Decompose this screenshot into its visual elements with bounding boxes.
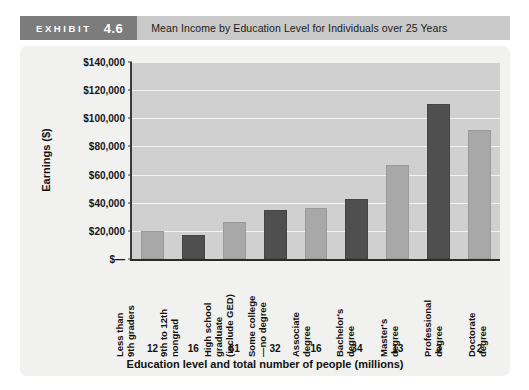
bar-slot [255, 62, 296, 259]
y-axis-title: Earnings ($) [40, 128, 52, 192]
bar-slot [418, 62, 459, 259]
plot-area: $140,000$120,000$100,000$80,000$60,000$4… [130, 62, 500, 261]
exhibit-title: Mean Income by Education Level for Indiv… [137, 16, 510, 40]
x-axis-count-label: 2 [459, 343, 500, 354]
y-axis-tick-label: $60,000 [89, 169, 132, 180]
bar-slot [377, 62, 418, 259]
cat-slot: Doctorate degree [484, 261, 528, 341]
bar-slot [296, 62, 337, 259]
bar-slot [336, 62, 377, 259]
exhibit-header: EXHIBIT 4.6 Mean Income by Education Lev… [20, 16, 510, 40]
bar-slot [173, 62, 214, 259]
x-axis-count-label: 32 [255, 343, 296, 354]
x-axis-count-label: 61 [214, 343, 255, 354]
x-axis-count-label: 16 [173, 343, 214, 354]
bar-slot [214, 62, 255, 259]
exhibit-badge: EXHIBIT 4.6 [20, 16, 137, 40]
bar [264, 210, 287, 259]
y-axis-tick-label: $40,000 [89, 197, 132, 208]
y-axis-tick-label: $140,000 [83, 57, 132, 68]
x-axis-category-labels: Less than 9th graders9th to 12th nongrad… [132, 261, 500, 341]
x-axis-count-label: 34 [336, 343, 377, 354]
y-axis-tick-label: $100,000 [83, 113, 132, 124]
bar [223, 222, 246, 259]
bar [182, 235, 205, 259]
y-axis-tick-label: $80,000 [89, 141, 132, 152]
bar-series [132, 62, 500, 259]
x-axis-title: Education level and total number of peop… [20, 358, 510, 370]
bar [345, 199, 368, 260]
bar [305, 208, 328, 259]
exhibit-number: 4.6 [104, 21, 124, 36]
bar-slot [459, 62, 500, 259]
chart-card: Earnings ($) $140,000$120,000$100,000$80… [20, 46, 510, 376]
y-axis-tick-label: $120,000 [83, 85, 132, 96]
exhibit-word: EXHIBIT [36, 23, 92, 34]
x-axis-count-label: 13 [377, 343, 418, 354]
x-axis-count-label: 16 [296, 343, 337, 354]
bar [468, 130, 491, 259]
bar [427, 104, 450, 259]
bar-slot [132, 62, 173, 259]
x-axis-count-label: 3 [418, 343, 459, 354]
y-axis-tick-label: $20,000 [89, 225, 132, 236]
bar [141, 231, 164, 259]
x-axis-count-labels: 1216613216341332 [132, 343, 500, 354]
x-axis-count-label: 12 [132, 343, 173, 354]
bar [386, 165, 409, 259]
